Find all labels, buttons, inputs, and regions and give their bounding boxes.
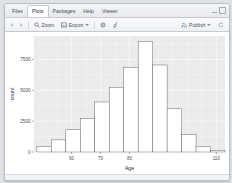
tab-plots[interactable]: Plots [27,5,49,17]
svg-text:7500: 7500 [20,57,31,62]
svg-text:0: 0 [28,150,31,155]
arrow-right-icon[interactable] [18,21,25,29]
export-image-icon [61,22,67,28]
publish-icon [181,22,188,28]
zoom-button-label: Zoom [42,20,55,30]
clear-plot-button[interactable] [98,20,108,30]
chevron-down-icon[interactable] [207,24,211,26]
tab-packages[interactable]: Packages [49,5,80,17]
tab-help[interactable]: Help [79,5,98,17]
broom-icon [113,21,119,28]
export-button-label: Export [69,20,83,30]
gear-icon [100,22,106,28]
toolbar-separator [28,21,29,29]
plot-output-area[interactable]: 0250050007500607080110Agecount [5,32,229,174]
toolbar-separator [94,21,95,29]
chevron-down-icon[interactable] [85,24,89,26]
refresh-icon [218,22,224,28]
minimize-icon[interactable] [212,9,217,13]
y-axis-title: count [9,87,15,100]
x-axis-title: Age [125,165,134,171]
export-button[interactable]: Export [59,20,90,30]
window-controls [212,7,226,14]
tab-viewer[interactable]: Viewer [98,5,122,17]
svg-text:2500: 2500 [20,119,31,124]
tab-files[interactable]: Files [8,5,27,17]
arrow-left-icon[interactable] [8,21,15,29]
screenshot-root: Files Plots Packages Help Viewer Zoom [0,0,232,183]
histogram-plot: 0250050007500607080110Agecount [5,32,227,174]
plots-pane-window: Files Plots Packages Help Viewer Zoom [4,3,230,181]
clear-all-plots-button[interactable] [111,20,121,30]
toolbar-right-group: Publish [179,18,226,31]
pane-tab-strip: Files Plots Packages Help Viewer [5,4,229,18]
publish-button[interactable]: Publish [179,20,213,30]
svg-text:80: 80 [127,156,133,161]
maximize-icon[interactable] [219,7,226,14]
zoom-button[interactable]: Zoom [32,20,56,30]
plots-toolbar: Zoom Export [5,18,229,32]
svg-text:5000: 5000 [20,88,31,93]
svg-text:70: 70 [98,156,104,161]
svg-text:60: 60 [69,156,75,161]
publish-button-label: Publish [189,20,205,30]
refresh-button[interactable] [216,20,226,30]
magnifier-icon [34,22,40,28]
svg-text:110: 110 [213,156,221,161]
pane-status-bar [5,174,229,180]
